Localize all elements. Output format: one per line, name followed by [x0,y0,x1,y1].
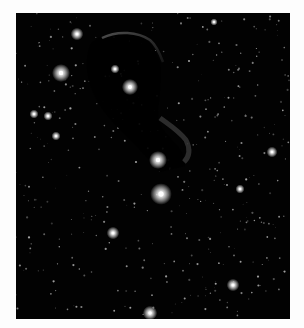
astronomical-image [16,13,290,319]
starfield [16,13,290,319]
